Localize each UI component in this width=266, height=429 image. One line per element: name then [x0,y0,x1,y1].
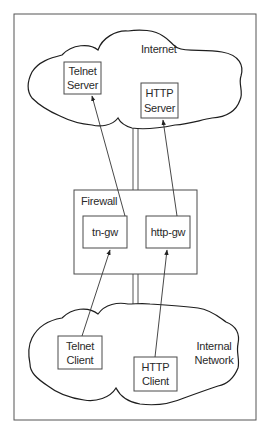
http-server-node: HTTP Server [141,83,178,118]
http-gw-node: http-gw [146,216,190,248]
internet-label: Internet [141,43,177,55]
http-server-line1: HTTP [146,87,174,99]
telnet-server-node: Telnet Server [64,62,101,94]
telnet-client-line2: Client [67,354,94,366]
http-server-line2: Server [144,102,176,114]
tn-gw-node: tn-gw [83,216,127,248]
http-client-line1: HTTP [142,361,170,373]
firewall-label: Firewall [81,195,117,207]
http-client-line2: Client [142,375,169,387]
internal-network-label-line1: Internal [196,340,231,352]
http-gw-label: http-gw [151,226,186,238]
internal-network-label-line2: Network [195,354,235,366]
telnet-server-line1: Telnet [68,65,96,77]
tn-gw-label: tn-gw [92,226,118,238]
firewall-node: Firewall tn-gw http-gw [74,190,197,274]
http-client-node: HTTP Client [134,357,177,391]
network-diagram: Internet Telnet Server HTTP Server Firew… [0,0,266,429]
telnet-client-line1: Telnet [66,340,94,352]
telnet-client-node: Telnet Client [58,336,102,369]
telnet-server-line2: Server [67,79,99,91]
